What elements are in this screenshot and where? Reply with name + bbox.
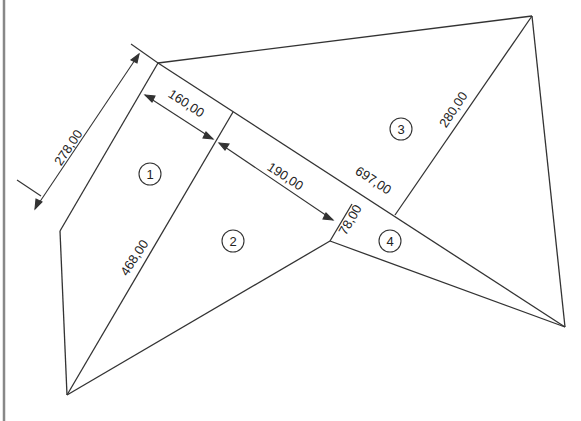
dimension-label-78: 78,00 — [335, 202, 364, 238]
dimension-label-697: 697,00 — [353, 163, 395, 197]
dimension-label-278: 278,00 — [51, 127, 86, 168]
parcel-number-1: 1 — [146, 167, 153, 182]
parcel-marker-1: 1 — [139, 163, 161, 185]
plot-diagram: 278,00 160,00 190,00 697,00 280,00 468,0… — [0, 0, 581, 421]
dimension-label-280: 280,00 — [436, 89, 471, 130]
dimension-lines — [17, 44, 333, 220]
dimension-label-468: 468,00 — [117, 237, 151, 279]
parcel-marker-2: 2 — [222, 230, 244, 252]
dimension-labels: 278,00 160,00 190,00 697,00 280,00 468,0… — [51, 86, 471, 278]
parcel-number-4: 4 — [386, 234, 393, 249]
parcel-marker-3: 3 — [390, 118, 412, 140]
parcel-number-3: 3 — [397, 122, 404, 137]
parcel-marker-4: 4 — [379, 230, 401, 252]
parcel-number-2: 2 — [229, 234, 236, 249]
